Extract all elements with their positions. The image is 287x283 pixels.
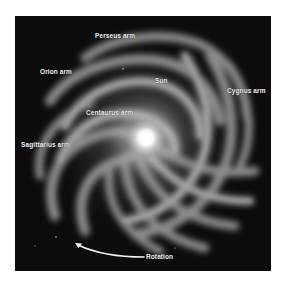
label-rotation: Rotation: [146, 254, 173, 261]
label-sagittarius-arm: Sagittarius arm: [21, 142, 70, 149]
label-perseus-arm: Perseus arm: [95, 33, 135, 40]
label-orion-arm: Orion arm: [40, 69, 72, 76]
label-cygnus-arm: Cygnus arm: [227, 88, 266, 95]
galaxy-image: Perseus arm Orion arm Sun Cygnus arm Cen…: [15, 16, 271, 271]
figure-page: Perseus arm Orion arm Sun Cygnus arm Cen…: [0, 0, 287, 283]
label-centaurus-arm: Centaurus arm: [86, 110, 133, 117]
label-sun: Sun: [155, 78, 168, 85]
